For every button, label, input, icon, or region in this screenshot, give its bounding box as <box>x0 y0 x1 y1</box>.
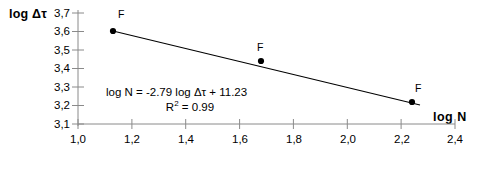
r-squared-symbol: R <box>166 101 174 113</box>
chart-container: log Δτ log N 3,7 3,6 3,5 3,4 3,3 3,2 3,1… <box>0 0 496 170</box>
data-point-3-label: F <box>415 82 421 94</box>
data-point-2-label: F <box>257 41 263 53</box>
data-point-3 <box>409 99 415 105</box>
regression-equation-annotation: log N = -2.79 log Δτ + 11.23 <box>106 86 247 98</box>
r-squared-value: = 0.99 <box>179 101 215 113</box>
data-point-2 <box>258 58 264 64</box>
data-point-1 <box>110 28 116 34</box>
r-squared-annotation: R2 = 0.99 <box>106 101 274 113</box>
plot-area <box>0 0 496 170</box>
data-point-1-label: F <box>118 8 124 20</box>
